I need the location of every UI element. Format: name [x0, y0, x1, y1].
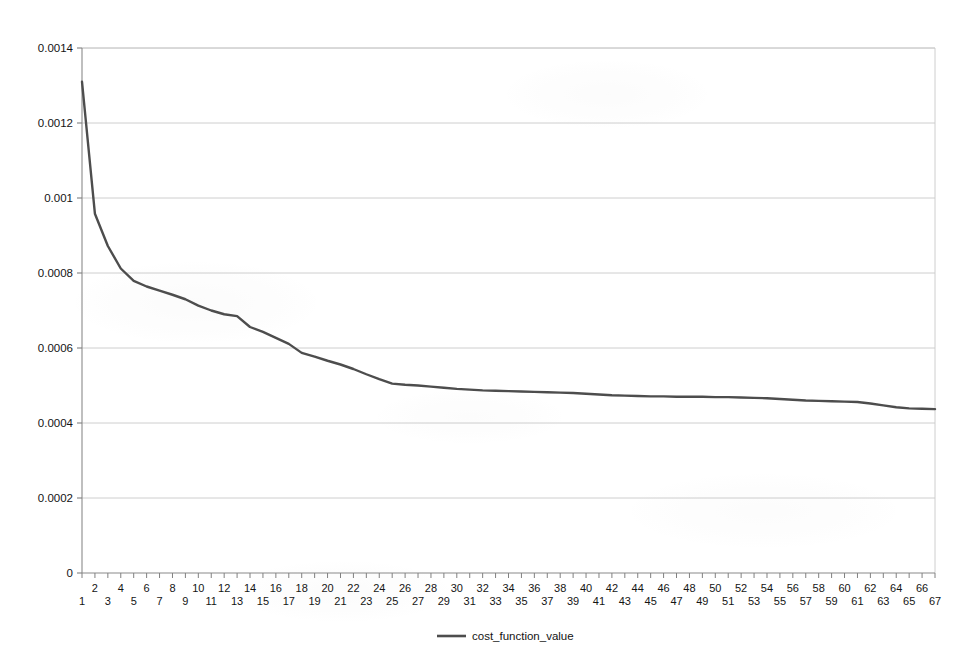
- x-tick-label-58: 58: [813, 582, 825, 594]
- x-tick-label-23: 23: [360, 595, 372, 607]
- x-tick-label-36: 36: [528, 582, 540, 594]
- x-tick-label-45: 45: [645, 595, 657, 607]
- x-tick-label-39: 39: [567, 595, 579, 607]
- line-chart: 00.00020.00040.00060.00080.0010.00120.00…: [0, 0, 979, 672]
- x-tick-label-40: 40: [580, 582, 592, 594]
- y-tick-label-1: 0.0002: [38, 492, 73, 504]
- x-tick-label-66: 66: [916, 582, 928, 594]
- x-tick-label-32: 32: [477, 582, 489, 594]
- y-tick-label-5: 0.001: [44, 192, 73, 204]
- x-tick-label-53: 53: [748, 595, 760, 607]
- y-tick-label-0: 0: [67, 567, 73, 579]
- x-tick-label-56: 56: [787, 582, 799, 594]
- x-tick-label-49: 49: [696, 595, 708, 607]
- x-tick-label-65: 65: [903, 595, 915, 607]
- x-tick-label-55: 55: [774, 595, 786, 607]
- x-tick-label-51: 51: [722, 595, 734, 607]
- x-tick-label-42: 42: [606, 582, 618, 594]
- y-tick-label-6: 0.0012: [38, 117, 73, 129]
- y-tick-label-3: 0.0006: [38, 342, 73, 354]
- x-tick-label-61: 61: [851, 595, 863, 607]
- x-tick-label-26: 26: [399, 582, 411, 594]
- x-tick-label-3: 3: [105, 595, 111, 607]
- x-tick-label-2: 2: [92, 582, 98, 594]
- x-tick-label-10: 10: [192, 582, 204, 594]
- x-tick-label-12: 12: [218, 582, 230, 594]
- x-tick-label-50: 50: [709, 582, 721, 594]
- x-tick-label-5: 5: [131, 595, 137, 607]
- x-tick-label-22: 22: [347, 582, 359, 594]
- x-tick-label-54: 54: [761, 582, 773, 594]
- x-tick-label-21: 21: [334, 595, 346, 607]
- x-tick-label-9: 9: [182, 595, 188, 607]
- chart-container: 00.00020.00040.00060.00080.0010.00120.00…: [0, 0, 979, 672]
- x-tick-label-64: 64: [890, 582, 902, 594]
- x-tick-label-52: 52: [735, 582, 747, 594]
- x-tick-label-29: 29: [438, 595, 450, 607]
- x-tick-label-41: 41: [593, 595, 605, 607]
- x-tick-label-46: 46: [657, 582, 669, 594]
- x-tick-label-57: 57: [800, 595, 812, 607]
- x-tick-label-13: 13: [231, 595, 243, 607]
- x-tick-label-60: 60: [838, 582, 850, 594]
- x-tick-label-37: 37: [541, 595, 553, 607]
- x-tick-label-25: 25: [386, 595, 398, 607]
- x-tick-label-59: 59: [825, 595, 837, 607]
- y-tick-label-2: 0.0004: [38, 417, 74, 429]
- chart-background: [0, 0, 979, 672]
- x-tick-label-4: 4: [118, 582, 124, 594]
- x-tick-label-67: 67: [929, 595, 941, 607]
- x-tick-label-7: 7: [156, 595, 162, 607]
- x-tick-label-48: 48: [683, 582, 695, 594]
- x-tick-label-11: 11: [206, 595, 217, 607]
- x-tick-label-31: 31: [464, 595, 476, 607]
- x-tick-label-43: 43: [619, 595, 631, 607]
- y-tick-label-4: 0.0008: [38, 267, 73, 279]
- x-tick-label-14: 14: [244, 582, 256, 594]
- x-tick-label-34: 34: [502, 582, 514, 594]
- x-tick-label-30: 30: [451, 582, 463, 594]
- x-tick-label-18: 18: [296, 582, 308, 594]
- x-tick-label-35: 35: [515, 595, 527, 607]
- x-tick-label-1: 1: [79, 595, 85, 607]
- x-tick-label-62: 62: [864, 582, 876, 594]
- x-tick-label-47: 47: [670, 595, 682, 607]
- x-tick-label-28: 28: [425, 582, 437, 594]
- x-tick-label-24: 24: [373, 582, 385, 594]
- x-tick-label-20: 20: [321, 582, 333, 594]
- x-tick-label-33: 33: [489, 595, 501, 607]
- x-tick-label-27: 27: [412, 595, 424, 607]
- x-tick-label-44: 44: [632, 582, 644, 594]
- x-tick-label-16: 16: [270, 582, 282, 594]
- x-tick-label-8: 8: [169, 582, 175, 594]
- x-tick-label-63: 63: [877, 595, 889, 607]
- x-tick-label-6: 6: [144, 582, 150, 594]
- x-tick-label-19: 19: [309, 595, 321, 607]
- x-tick-label-17: 17: [283, 595, 295, 607]
- x-tick-label-38: 38: [554, 582, 566, 594]
- y-tick-label-7: 0.0014: [38, 42, 74, 54]
- legend-label-cost-function-value: cost_function_value: [472, 630, 574, 642]
- x-tick-label-15: 15: [257, 595, 269, 607]
